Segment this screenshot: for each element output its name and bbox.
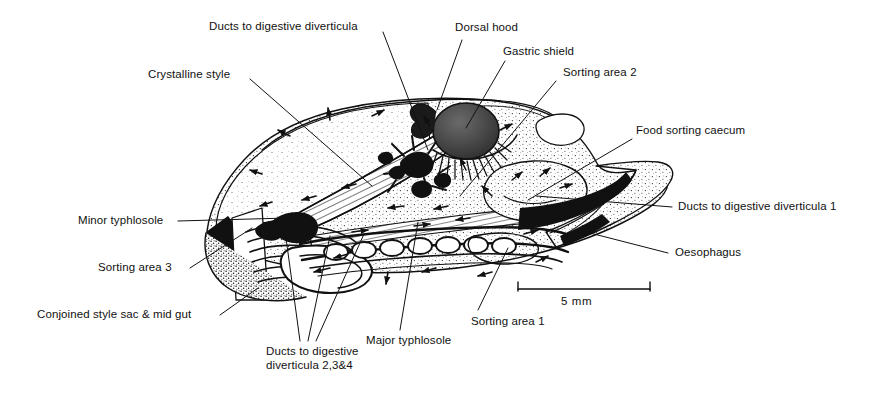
label-minor-typhlosole: Minor typhlosole [78,214,163,228]
sorting-area-2-shape [536,114,584,145]
label-conjoined-style-sac-mid-gut: Conjoined style sac & mid gut [37,308,191,322]
label-ducts-to-digestive-diverticula: Ducts to digestive diverticula [209,20,358,34]
anatomical-figure: Ducts to digestive diverticula Crystalli… [0,0,895,396]
label-ducts-to-digestive-diverticula-234-line2: diverticula 2,3&4 [266,359,353,373]
label-gastric-shield: Gastric shield [503,45,574,59]
scale-bar-caption: 5 mm [561,295,592,307]
label-sorting-area-3: Sorting area 3 [98,261,172,275]
label-sorting-area-2: Sorting area 2 [563,66,637,80]
label-sorting-area-1: Sorting area 1 [471,315,545,329]
label-crystalline-style: Crystalline style [148,68,230,82]
label-oesophagus: Oesophagus [675,246,741,260]
label-major-typhlosole: Major typhlosole [366,334,451,348]
label-ducts-to-digestive-diverticula-234-line1: Ducts to digestive [266,345,359,359]
label-food-sorting-caecum: Food sorting caecum [636,124,745,138]
label-ducts-to-digestive-diverticula-1: Ducts to digestive diverticula 1 [678,200,837,214]
scale-bar [518,282,650,291]
label-dorsal-hood: Dorsal hood [455,21,518,35]
leader-oesophagus [590,233,668,253]
